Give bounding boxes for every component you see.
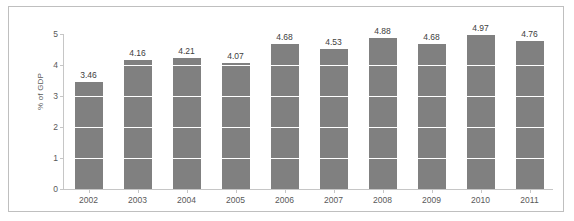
x-axis-tick-label: 2011: [505, 195, 554, 205]
bar[interactable]: [320, 49, 348, 189]
bar[interactable]: [124, 60, 152, 189]
gridline: [64, 96, 553, 97]
y-axis-tick-mark: [60, 127, 63, 128]
bar-group[interactable]: 4.162003: [113, 7, 162, 211]
bar[interactable]: [222, 63, 250, 189]
y-axis-tick-mark: [60, 96, 63, 97]
y-axis-tick-label: 0: [39, 184, 58, 194]
bar-value-label: 4.53: [309, 37, 358, 47]
bar-value-label: 4.97: [456, 23, 505, 33]
x-axis-tick-mark: [383, 190, 384, 193]
bar-value-label: 4.21: [162, 46, 211, 56]
x-axis-tick-label: 2005: [211, 195, 260, 205]
x-axis-tick-label: 2008: [358, 195, 407, 205]
y-axis-tick-label: 1: [39, 153, 58, 163]
bar-group[interactable]: 4.212004: [162, 7, 211, 211]
bar-value-label: 4.68: [260, 32, 309, 42]
x-axis-tick-mark: [432, 190, 433, 193]
x-axis-tick-label: 2007: [309, 195, 358, 205]
y-axis-tick-label: 4: [39, 60, 58, 70]
bar-group[interactable]: 4.682006: [260, 7, 309, 211]
gridline: [64, 127, 553, 128]
y-axis-tick-label: 3: [39, 91, 58, 101]
x-axis-tick-label: 2002: [64, 195, 113, 205]
y-axis-tick-mark: [60, 34, 63, 35]
plot-area: % of GDP 012345 3.4620024.1620034.212004…: [9, 7, 563, 211]
x-axis-tick-mark: [138, 190, 139, 193]
bar-group[interactable]: 3.462002: [64, 7, 113, 211]
y-axis-tick-label: 2: [39, 122, 58, 132]
x-axis-tick-mark: [236, 190, 237, 193]
y-axis-tick-mark: [60, 158, 63, 159]
x-axis-tick-mark: [530, 190, 531, 193]
x-axis-tick-mark: [89, 190, 90, 193]
bar-value-label: 4.68: [407, 32, 456, 42]
x-axis-tick-label: 2010: [456, 195, 505, 205]
gridline: [64, 158, 553, 159]
x-axis-tick-label: 2003: [113, 195, 162, 205]
x-axis-tick-mark: [334, 190, 335, 193]
bar-group[interactable]: 4.762011: [505, 7, 554, 211]
bar-group[interactable]: 4.682009: [407, 7, 456, 211]
x-axis-tick-label: 2009: [407, 195, 456, 205]
bar-value-label: 4.16: [113, 48, 162, 58]
y-axis-tick-mark: [60, 65, 63, 66]
bar-group[interactable]: 4.972010: [456, 7, 505, 211]
x-axis-tick-label: 2004: [162, 195, 211, 205]
x-axis-tick-mark: [481, 190, 482, 193]
bar-group[interactable]: 4.532007: [309, 7, 358, 211]
bar-group[interactable]: 4.072005: [211, 7, 260, 211]
bar-value-label: 3.46: [64, 70, 113, 80]
bar[interactable]: [173, 58, 201, 189]
bar-value-label: 4.76: [505, 29, 554, 39]
gridline: [64, 65, 553, 66]
bar-group[interactable]: 4.882008: [358, 7, 407, 211]
bar-value-label: 4.07: [211, 51, 260, 61]
x-axis-tick-mark: [187, 190, 188, 193]
y-axis-tick-label: 5: [39, 29, 58, 39]
chart-frame: % of GDP 012345 3.4620024.1620034.212004…: [8, 6, 564, 212]
bar[interactable]: [467, 35, 495, 189]
y-axis-tick-mark: [60, 189, 63, 190]
bar-value-label: 4.88: [358, 26, 407, 36]
x-axis-tick-label: 2006: [260, 195, 309, 205]
bar[interactable]: [516, 41, 544, 189]
bar[interactable]: [75, 82, 103, 189]
bar[interactable]: [369, 38, 397, 189]
x-axis-tick-mark: [285, 190, 286, 193]
